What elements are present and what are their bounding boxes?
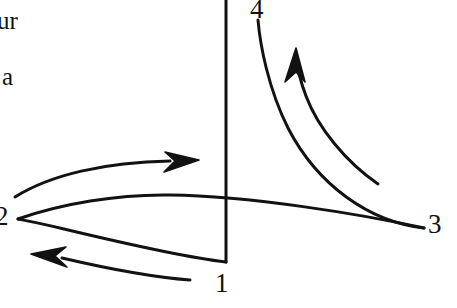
diagram-canvas — [0, 0, 457, 308]
state-label-2: 2 — [0, 203, 9, 230]
process-curve-1-return-arrowed — [62, 258, 190, 280]
state-label-4: 4 — [250, 0, 264, 23]
state-label-1: 1 — [215, 270, 229, 297]
process-curve-4-arrowed — [296, 57, 378, 184]
cycle-diagram-figure: ur a 1 2 3 4 — [0, 0, 457, 308]
text-fragment-a: a — [2, 64, 13, 89]
text-fragment-ur: ur — [0, 8, 18, 33]
process-curve-2-to-3 — [18, 195, 424, 228]
process-curve-2-upper-arrowed — [15, 161, 170, 197]
process-curve-3-to-4 — [258, 20, 424, 228]
state-label-3: 3 — [428, 211, 442, 238]
arrowhead-up — [285, 48, 305, 82]
